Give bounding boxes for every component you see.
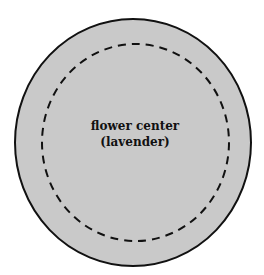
label-line-2: (lavender) <box>60 134 210 150</box>
flower-center-label: flower center (lavender) <box>60 118 210 150</box>
label-line-1: flower center <box>60 118 210 134</box>
